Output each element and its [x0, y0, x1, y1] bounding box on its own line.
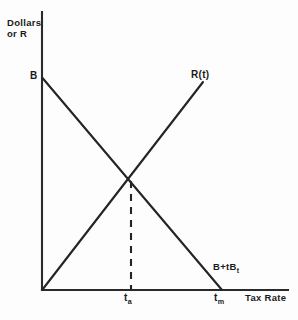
- x-tick-ta-subscript: a: [128, 297, 132, 306]
- base-curve-label-subscript: t: [237, 267, 239, 274]
- x-tick-label-tm: tm: [214, 292, 224, 306]
- base-curve-label-main: B+tB: [213, 261, 237, 272]
- y-axis-label-line2: or R: [7, 29, 41, 40]
- x-tick-label-ta: ta: [124, 292, 132, 306]
- b-intercept-label: B: [30, 70, 38, 82]
- x-axis-label: Tax Rate: [245, 293, 286, 304]
- plot-area: [0, 0, 298, 320]
- x-tick-tm-subscript: m: [218, 297, 224, 306]
- base-curve-label: B+tBt: [213, 262, 239, 275]
- series-line-rt: [43, 82, 204, 290]
- chart-figure: Dollars or R B R(t) B+tBt ta tm Tax Rate: [0, 0, 298, 320]
- revenue-curve-label: R(t): [191, 69, 209, 81]
- y-axis-label: Dollars or R: [7, 18, 41, 40]
- series-line-btb: [43, 78, 223, 290]
